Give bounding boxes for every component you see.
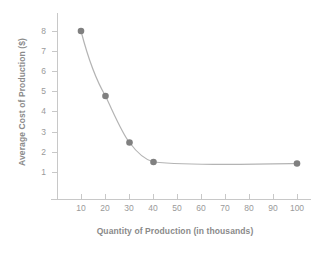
x-tick-label: 70: [214, 203, 236, 213]
data-point: [78, 28, 85, 35]
chart-canvas: [0, 0, 330, 255]
cost-curve-chart: 8 7 6 5 4 3 2 1 10 20 30 40 50 60 70 80 …: [0, 0, 330, 255]
x-tick-label: 100: [286, 203, 308, 213]
y-tick-label: 2: [32, 147, 46, 157]
data-point: [294, 160, 301, 167]
data-point: [126, 139, 133, 146]
x-tick-label: 60: [190, 203, 212, 213]
y-tick-label: 8: [32, 26, 46, 36]
y-tick-label: 6: [32, 66, 46, 76]
y-tick-label: 4: [32, 106, 46, 116]
y-axis-title: Average Cost of Production ($): [17, 12, 27, 192]
x-tick-label: 50: [166, 203, 188, 213]
x-tick-label: 40: [142, 203, 164, 213]
data-point: [102, 93, 109, 100]
x-tick-label: 10: [70, 203, 92, 213]
y-tick-label: 7: [32, 46, 46, 56]
x-tick-label: 30: [118, 203, 140, 213]
x-tick-label: 80: [238, 203, 260, 213]
data-line: [81, 31, 297, 165]
y-tick-label: 3: [32, 127, 46, 137]
y-tick-label: 1: [32, 167, 46, 177]
y-axis-ticks: [52, 32, 57, 173]
data-points: [78, 28, 301, 167]
x-tick-label: 20: [94, 203, 116, 213]
y-tick-label: 5: [32, 86, 46, 96]
data-point: [150, 159, 157, 166]
x-axis-ticks: [82, 194, 298, 199]
x-axis-title: Quantity of Production (in thousands): [40, 226, 310, 236]
x-tick-label: 90: [262, 203, 284, 213]
